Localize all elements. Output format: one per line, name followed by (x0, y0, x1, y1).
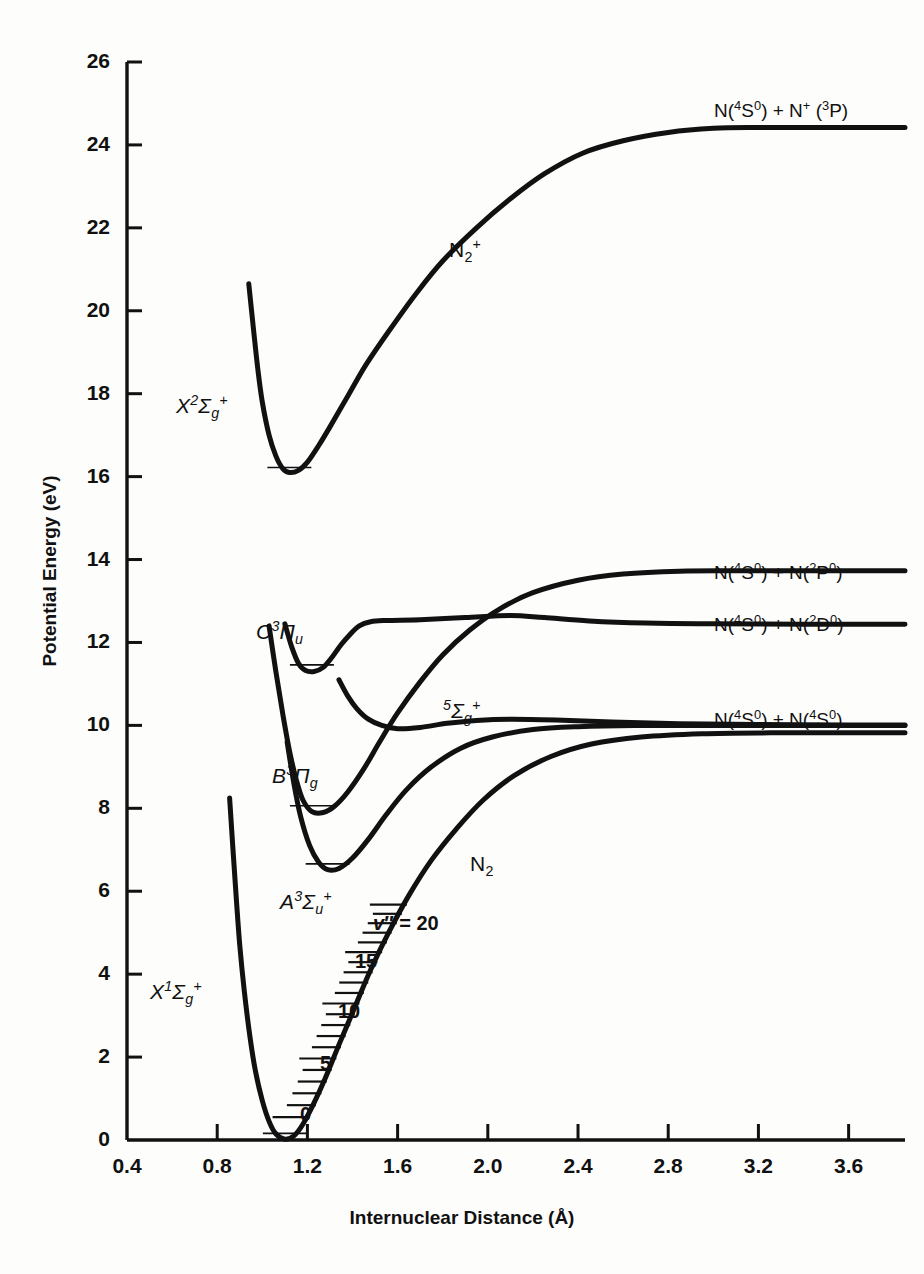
potential-curve (230, 733, 905, 1139)
vib-label-0: 0 (300, 1103, 311, 1126)
y-tick-label: 26 (58, 49, 110, 73)
asymptote-label-2p: N(4S0) + N(2P0) (714, 560, 843, 584)
asymptote-label-4s: N(4S0) + N(4S0) (714, 707, 843, 731)
y-tick-label: 0 (58, 1127, 110, 1151)
species-label-n2: N2 (470, 852, 494, 879)
vib-label-20: v″ = 20 (373, 912, 439, 935)
plot-canvas (0, 0, 924, 1274)
state-label-n2plus-x: X2Σg+ (176, 392, 228, 421)
asymptote-label-ion: N(4S0) + N+ (3P) (714, 98, 848, 122)
y-tick-label: 18 (58, 381, 110, 405)
vib-label-10: 10 (338, 1000, 360, 1023)
vib-label-15: 15 (355, 950, 377, 973)
y-tick-label: 24 (58, 132, 110, 156)
asymptote-label-2d: N(4S0) + N(2D0) (714, 612, 844, 636)
y-tick-label: 8 (58, 795, 110, 819)
vib-label-5: 5 (320, 1052, 331, 1075)
y-tick-label: 12 (58, 629, 110, 653)
y-tick-label: 6 (58, 878, 110, 902)
y-axis-ticks (127, 62, 142, 1057)
species-label-n2-plus: N2+ (449, 236, 481, 265)
state-label-n2-b: B3Πg (272, 762, 318, 791)
state-label-n2-c: C3Πu (256, 618, 303, 647)
potential-energy-curve-figure: 02468101214161820222426 0.40.81.21.62.02… (0, 0, 924, 1274)
x-tick-label: 1.6 (358, 1154, 438, 1178)
state-label-n2-quintet: 5Σg+ (443, 697, 481, 726)
y-tick-label: 16 (58, 464, 110, 488)
x-tick-label: 1.2 (267, 1154, 347, 1178)
y-axis-title: Potential Energy (eV) (39, 451, 61, 691)
x-tick-label: 0.8 (177, 1154, 257, 1178)
x-tick-label: 3.6 (809, 1154, 889, 1178)
y-tick-label: 22 (58, 215, 110, 239)
x-tick-label: 3.2 (718, 1154, 798, 1178)
potential-curve (269, 571, 905, 813)
y-tick-label: 2 (58, 1044, 110, 1068)
x-axis-ticks (217, 1124, 848, 1140)
y-tick-label: 14 (58, 547, 110, 571)
state-label-n2-x: X1Σg+ (150, 978, 202, 1007)
x-axis-title: Internuclear Distance (Å) (0, 1207, 924, 1229)
x-tick-label: 2.8 (628, 1154, 708, 1178)
y-tick-label: 4 (58, 961, 110, 985)
y-tick-label: 20 (58, 298, 110, 322)
x-tick-label: 2.0 (448, 1154, 528, 1178)
x-tick-label: 2.4 (538, 1154, 618, 1178)
state-label-n2-a: A3Σu+ (280, 888, 332, 917)
potential-curve (287, 725, 905, 870)
y-tick-label: 10 (58, 712, 110, 736)
well-bottom-lines (263, 467, 350, 1133)
potential-curve (249, 127, 905, 472)
x-tick-label: 0.4 (87, 1154, 167, 1178)
